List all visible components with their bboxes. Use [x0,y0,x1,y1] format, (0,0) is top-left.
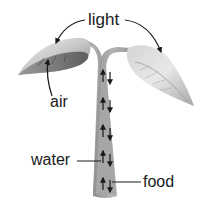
stem [84,40,130,198]
plant-diagram: light air water food [0,0,202,222]
label-water: water [31,152,70,168]
label-light: light [88,12,119,28]
right-leaf [127,45,194,106]
left-leaf [18,38,90,75]
label-air: air [50,94,68,110]
label-food: food [143,174,174,190]
